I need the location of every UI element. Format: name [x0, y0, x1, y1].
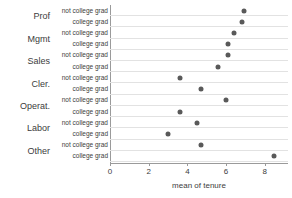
- x-tick: [265, 163, 266, 166]
- x-tick: [149, 163, 150, 166]
- data-point: [224, 98, 229, 103]
- data-point: [241, 8, 246, 13]
- series-label: college grad: [73, 152, 108, 160]
- gridline: [110, 161, 288, 162]
- category-label: Other: [0, 146, 50, 156]
- category-label: Mgmt: [0, 34, 50, 44]
- category-label: Cler.: [0, 79, 50, 89]
- plot-row: [110, 16, 288, 27]
- data-point: [239, 19, 244, 24]
- plot-row: [110, 106, 288, 117]
- data-point: [216, 64, 221, 69]
- data-point: [226, 42, 231, 47]
- plot-row: [110, 117, 288, 128]
- data-point: [166, 131, 171, 136]
- plot-row: [110, 140, 288, 151]
- series-label: college grad: [73, 85, 108, 93]
- category-label: Operat.: [0, 101, 50, 111]
- series-label: college grad: [73, 63, 108, 71]
- data-point: [198, 87, 203, 92]
- plot-row: [110, 27, 288, 38]
- x-tick-label: 2: [146, 167, 150, 177]
- plot-row: [110, 84, 288, 95]
- plot-row: [110, 72, 288, 83]
- plot-area: [110, 5, 288, 162]
- plot-row: [110, 50, 288, 61]
- series-label: not college grad: [62, 74, 108, 82]
- data-point: [177, 75, 182, 80]
- category-label: Prof: [0, 11, 50, 21]
- series-label: not college grad: [62, 141, 108, 149]
- series-axis-labels: not college gradcollege gradnot college …: [50, 5, 109, 162]
- category-label: Sales: [0, 56, 50, 66]
- plot-row: [110, 151, 288, 162]
- x-tick-label: 6: [224, 167, 228, 177]
- category-axis-labels: ProfMgmtSalesCler.Operat.LaborOther: [0, 5, 50, 162]
- series-label: not college grad: [62, 29, 108, 37]
- x-axis-title: mean of tenure: [110, 181, 288, 190]
- series-label: not college grad: [62, 51, 108, 59]
- data-point: [231, 31, 236, 36]
- data-point: [198, 143, 203, 148]
- series-label: college grad: [73, 18, 108, 26]
- x-tick: [226, 163, 227, 166]
- series-label: college grad: [73, 108, 108, 116]
- x-tick: [187, 163, 188, 166]
- series-label: college grad: [73, 40, 108, 48]
- data-point: [272, 154, 277, 159]
- x-axis-line: [110, 163, 288, 164]
- series-label: college grad: [73, 130, 108, 138]
- data-point: [177, 109, 182, 114]
- plot-row: [110, 5, 288, 16]
- data-point: [195, 120, 200, 125]
- series-label: not college grad: [62, 7, 108, 15]
- series-label: not college grad: [62, 96, 108, 104]
- x-tick-label: 0: [108, 167, 112, 177]
- plot-row: [110, 61, 288, 72]
- x-tick-label: 4: [185, 167, 189, 177]
- plot-row: [110, 95, 288, 106]
- series-label: not college grad: [62, 119, 108, 127]
- dot-plot-chart: ProfMgmtSalesCler.Operat.LaborOther not …: [0, 0, 292, 198]
- plot-row: [110, 39, 288, 50]
- plot-row: [110, 128, 288, 139]
- x-tick: [110, 163, 111, 166]
- category-label: Labor: [0, 123, 50, 133]
- x-tick-label: 8: [263, 167, 267, 177]
- data-point: [226, 53, 231, 58]
